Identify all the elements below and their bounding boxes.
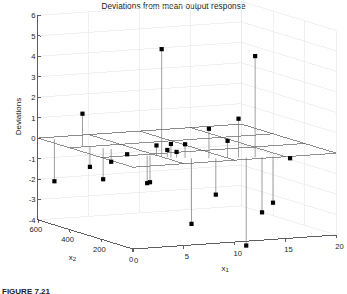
data-point-marker — [214, 193, 218, 197]
data-point-marker — [52, 179, 56, 183]
data-point-marker — [125, 152, 129, 156]
figure-caption: FIGURE 7.21 — [2, 287, 50, 294]
data-point-marker — [174, 150, 178, 154]
z-axis-tick-label: 6 — [31, 11, 35, 20]
z-axis-tick-label: -3 — [29, 195, 36, 204]
z-axis-tick-label: 3 — [31, 72, 35, 81]
data-point-marker — [148, 180, 152, 184]
data-point-marker — [154, 143, 158, 147]
x1-axis-tick-label: 15 — [284, 245, 292, 254]
z-axis-label: Deviations — [13, 84, 22, 148]
data-point-marker — [236, 117, 240, 121]
data-point-marker — [288, 156, 292, 160]
x1-axis-tick-label: 20 — [335, 242, 343, 251]
figure-container: Deviations from mean output response -4-… — [0, 0, 347, 294]
z-axis-tick-label: 2 — [31, 93, 35, 102]
x2-axis-tick-label: 600 — [30, 225, 43, 234]
data-point-marker — [253, 54, 257, 58]
data-point-marker — [260, 210, 264, 214]
z-axis-tick-label: -2 — [29, 175, 36, 184]
x1-axis-tick-label: 0 — [134, 256, 138, 265]
x1-axis-tick-label: 10 — [233, 249, 241, 258]
z-axis-tick-label: -4 — [29, 215, 36, 224]
x2-axis-tick-label: 0 — [129, 255, 133, 264]
data-point-marker — [189, 222, 193, 226]
x2-axis-tick-label: 200 — [93, 245, 106, 254]
x1-axis-label: x1 — [222, 264, 229, 273]
data-point-marker — [109, 160, 113, 164]
data-point-marker — [225, 139, 229, 143]
data-point-marker — [165, 148, 169, 152]
z-axis-tick-label: 5 — [31, 31, 35, 40]
data-point-marker — [207, 127, 211, 131]
stem3-plot-canvas — [0, 0, 347, 294]
data-point-marker — [271, 201, 275, 205]
data-point-marker — [183, 142, 187, 146]
data-point-marker — [160, 47, 164, 51]
data-point-marker — [169, 142, 173, 146]
data-point-markers — [52, 47, 292, 248]
z-axis-tick-label: 0 — [31, 134, 35, 143]
data-point-marker — [80, 112, 84, 116]
z-axis-tick-label: 1 — [31, 113, 35, 122]
z-axis-tick-label: -1 — [29, 154, 36, 163]
x2-axis-tick-label: 400 — [61, 235, 74, 244]
x1-axis-tick-label: 5 — [185, 252, 189, 261]
data-point-marker — [101, 177, 105, 181]
data-point-marker — [244, 243, 248, 247]
x2-axis-label: x2 — [69, 253, 76, 262]
z-axis-tick-label: 4 — [31, 52, 35, 61]
data-point-marker — [88, 165, 92, 169]
